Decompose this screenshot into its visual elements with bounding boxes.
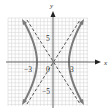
tick-label-x-neg: −3 [24,65,32,74]
hyperbola-figure: x y −3 0 3 5 −5 [0,0,112,110]
x-axis-arrow-icon [95,60,101,65]
tick-label-y-pos: 5 [46,34,50,43]
x-axis-label: x [103,59,108,67]
tick-label-y-neg: −5 [42,87,50,96]
y-axis-label: y [49,2,54,10]
y-axis-arrow-icon [51,11,56,17]
tick-label-origin: 0 [46,65,50,74]
tick-label-x-pos: 3 [70,65,74,74]
